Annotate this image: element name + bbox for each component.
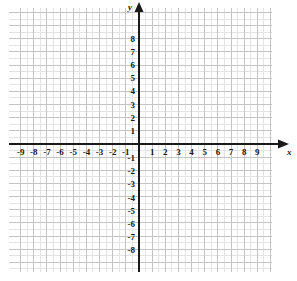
x-tick-label-8: 8 (242, 148, 247, 157)
x-tick-label-2: 2 (163, 148, 168, 157)
y-tick-label-neg7: -7 (128, 233, 136, 242)
x-tick-label-5: 5 (203, 148, 208, 157)
y-tick-label-5: 5 (131, 74, 136, 83)
minor-gridlines (9, 8, 272, 272)
x-tick-label-1: 1 (150, 148, 155, 157)
y-axis-label: y (128, 3, 132, 12)
x-tick-label-neg6: -6 (56, 148, 64, 157)
x-axis-label: x (287, 148, 292, 157)
y-tick-label-1: 1 (131, 126, 136, 135)
y-tick-label-6: 6 (131, 61, 136, 70)
x-tick-label-9: 9 (255, 148, 260, 157)
x-tick-label-7: 7 (229, 148, 234, 157)
x-tick-label-neg4: -4 (83, 148, 91, 157)
coordinate-plane: -9-8-7-6-5-4-3-2-1123456789 87654321-1-2… (0, 0, 297, 281)
y-tick-label-neg2: -2 (128, 167, 136, 176)
x-tick-label-neg2: -2 (109, 148, 117, 157)
major-gridlines (9, 8, 272, 272)
x-tick-label-3: 3 (176, 148, 181, 157)
y-axis-arrowhead (135, 2, 144, 12)
x-tick-label-neg9: -9 (17, 148, 25, 157)
x-tick-label-neg5: -5 (70, 148, 78, 157)
y-tick-label-neg6: -6 (128, 219, 136, 228)
x-tick-label-neg7: -7 (43, 148, 51, 157)
x-tick-label-neg8: -8 (30, 148, 38, 157)
x-tick-label-4: 4 (189, 148, 194, 157)
y-tick-label-neg3: -3 (128, 180, 136, 189)
grid-canvas (0, 0, 297, 281)
y-tick-label-3: 3 (131, 100, 136, 109)
y-tick-label-neg5: -5 (128, 206, 136, 215)
y-tick-label-neg8: -8 (128, 246, 136, 255)
y-tick-label-8: 8 (131, 34, 136, 43)
y-tick-label-4: 4 (131, 87, 136, 96)
y-tick-label-2: 2 (131, 113, 136, 122)
x-tick-label-neg3: -3 (96, 148, 104, 157)
x-tick-label-6: 6 (216, 148, 221, 157)
y-tick-label-7: 7 (131, 47, 136, 56)
y-tick-label-neg4: -4 (128, 193, 136, 202)
y-tick-label-neg1: -1 (128, 154, 136, 163)
